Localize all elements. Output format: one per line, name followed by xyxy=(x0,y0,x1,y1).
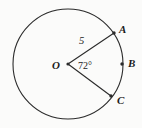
point-c-marker xyxy=(109,94,112,97)
label-center-o: O xyxy=(52,60,60,71)
label-point-a: A xyxy=(119,24,126,35)
geometry-figure: O A B C 5 72° xyxy=(0,0,142,128)
center-point-o-marker xyxy=(66,62,69,65)
label-point-c: C xyxy=(117,95,124,106)
label-central-angle: 72° xyxy=(78,61,92,71)
point-b-marker xyxy=(120,62,123,65)
point-a-marker xyxy=(112,31,115,34)
label-radius-value: 5 xyxy=(79,36,84,47)
label-point-b: B xyxy=(128,58,135,69)
geometry-canvas xyxy=(0,0,142,128)
